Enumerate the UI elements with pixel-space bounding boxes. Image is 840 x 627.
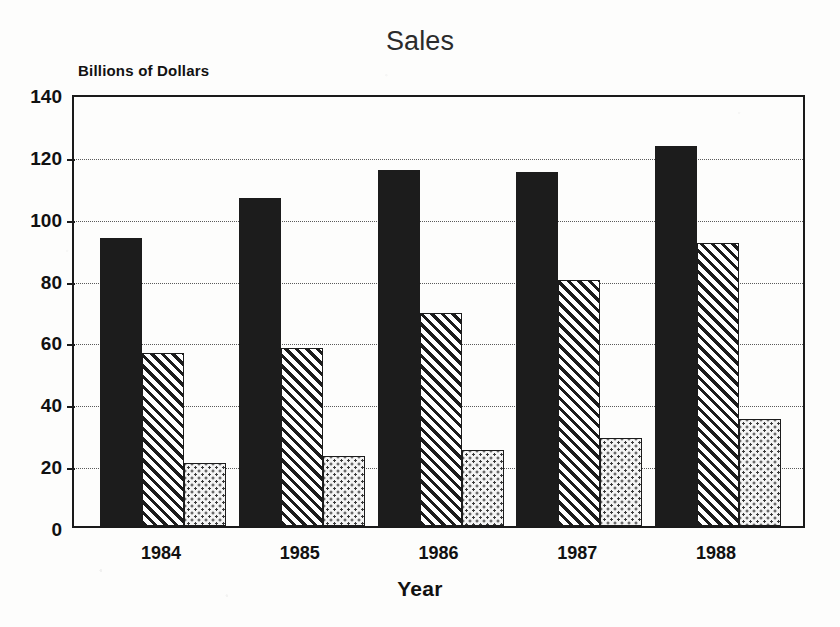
y-tick-label: 20 [41, 457, 62, 479]
bar [100, 238, 142, 526]
y-tick-label: 0 [51, 519, 62, 541]
bar [462, 450, 504, 526]
y-tick-mark [67, 159, 75, 161]
bar [697, 243, 739, 526]
x-tick-label: 1984 [141, 543, 181, 564]
bar [600, 438, 642, 526]
plot-area: 020406080100120140 [72, 95, 805, 528]
bar [184, 463, 226, 526]
x-tick-label: 1988 [696, 543, 736, 564]
y-tick-mark [67, 283, 75, 285]
y-tick-mark [67, 406, 75, 408]
x-tick-label: 1986 [418, 543, 458, 564]
bar [142, 353, 184, 526]
x-axis-label: Year [0, 577, 840, 601]
y-tick-mark [67, 468, 75, 470]
y-tick-label: 60 [41, 333, 62, 355]
bar [558, 280, 600, 526]
x-tick-label: 1985 [280, 543, 320, 564]
y-tick-label: 120 [30, 148, 62, 170]
y-tick-label: 80 [41, 272, 62, 294]
y-tick-mark [67, 221, 75, 223]
y-tick-mark [67, 344, 75, 346]
bar [323, 456, 365, 526]
y-tick-label: 40 [41, 395, 62, 417]
bar [739, 419, 781, 526]
bar [420, 313, 462, 526]
chart-page: Sales Billions of Dollars 02040608010012… [0, 0, 840, 627]
y-axis-label: Billions of Dollars [78, 62, 209, 79]
bar [516, 172, 558, 526]
bar [281, 348, 323, 526]
x-tick-label: 1987 [557, 543, 597, 564]
bar [378, 170, 420, 526]
y-tick-label: 100 [30, 210, 62, 232]
y-tick-label: 140 [30, 86, 62, 108]
bar [655, 146, 697, 526]
chart-title: Sales [0, 26, 840, 57]
bar [239, 198, 281, 526]
